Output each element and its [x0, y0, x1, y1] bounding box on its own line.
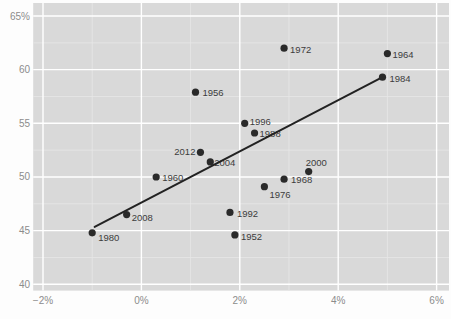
- data-point-1984: [379, 74, 386, 81]
- data-point-1992: [226, 209, 233, 216]
- x-axis-tick-label: 6%: [429, 295, 444, 306]
- point-label-1996: 1996: [250, 116, 271, 127]
- y-axis-tick-label: 55: [19, 118, 31, 129]
- data-point-1960: [153, 173, 160, 180]
- y-axis-tick-label: 65%: [10, 11, 30, 22]
- x-axis-tick-label: 2%: [233, 295, 248, 306]
- point-label-1968: 1968: [291, 174, 312, 185]
- data-point-1956: [192, 89, 199, 96]
- point-label-1980: 1980: [98, 232, 119, 243]
- chart-canvas: 1952195619601964196819721976198019841988…: [0, 0, 451, 319]
- data-point-1976: [261, 183, 268, 190]
- y-axis-tick-label: 60: [19, 64, 31, 75]
- point-label-1964: 1964: [392, 49, 413, 60]
- data-point-1952: [231, 231, 238, 238]
- point-label-1976: 1976: [269, 189, 290, 200]
- data-point-2004: [207, 158, 214, 165]
- y-axis-tick-label: 40: [19, 279, 31, 290]
- data-point-1968: [280, 176, 287, 183]
- point-label-1972: 1972: [290, 44, 311, 55]
- y-axis-tick-label: 50: [19, 171, 31, 182]
- x-axis-tick-label: −2%: [33, 295, 53, 306]
- x-axis-tick-label: 4%: [331, 295, 346, 306]
- point-label-1952: 1952: [241, 231, 262, 242]
- point-label-2008: 2008: [132, 212, 153, 223]
- point-label-1984: 1984: [389, 73, 410, 84]
- point-label-1992: 1992: [237, 208, 258, 219]
- data-point-1996: [241, 120, 248, 127]
- data-point-1988: [251, 129, 258, 136]
- x-axis-tick-label: 0%: [134, 295, 149, 306]
- point-label-1956: 1956: [203, 87, 224, 98]
- point-label-2000: 2000: [306, 157, 327, 168]
- data-point-2012: [197, 149, 204, 156]
- plot-panel: [33, 3, 449, 291]
- point-label-1988: 1988: [260, 128, 281, 139]
- point-label-2012: 2012: [174, 146, 195, 157]
- scatter-plot-figure: 1952195619601964196819721976198019841988…: [0, 0, 451, 319]
- data-point-2008: [123, 211, 130, 218]
- y-axis-tick-label: 45: [19, 225, 31, 236]
- data-point-1964: [384, 50, 391, 57]
- data-point-1972: [280, 45, 287, 52]
- data-point-2000: [305, 168, 312, 175]
- data-point-1980: [89, 229, 96, 236]
